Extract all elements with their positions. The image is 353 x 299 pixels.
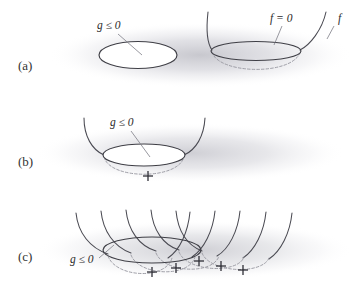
constraint-ellipse-b — [103, 144, 185, 166]
constraint-label-a: g ≤ 0 — [97, 19, 121, 32]
feasible-region-a — [99, 42, 177, 69]
objective-label-a: f — [338, 12, 343, 25]
feasible-region-b — [103, 144, 185, 166]
constraint-ellipse-a — [99, 42, 177, 69]
ground-shadow-b — [35, 123, 345, 183]
level-set-label-a: f = 0 — [270, 12, 293, 25]
constrained-optimization-figure: g ≤ 0 f = 0 f (a) — [0, 0, 353, 299]
panel-c: g ≤ 0 (c) — [18, 210, 353, 280]
ground-shadow-c — [37, 220, 353, 280]
ground-shadow-a — [48, 22, 352, 88]
objective-leader-a — [327, 26, 334, 39]
figure-root: g ≤ 0 f = 0 f (a) — [0, 0, 353, 299]
panel-label-c: (c) — [18, 249, 32, 264]
panel-a: g ≤ 0 f = 0 f (a) — [18, 12, 352, 88]
constraint-label-c: g ≤ 0 — [70, 253, 94, 266]
constraint-label-b: g ≤ 0 — [110, 116, 134, 129]
panel-label-b: (b) — [18, 154, 33, 169]
panel-label-a: (a) — [18, 58, 32, 73]
panel-b: g ≤ 0 (b) — [18, 116, 345, 183]
